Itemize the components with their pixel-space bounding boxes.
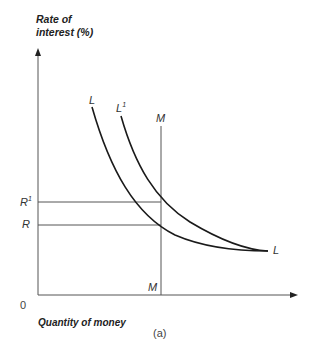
- m-top-label: M: [156, 112, 165, 124]
- l-curve: [92, 107, 268, 251]
- l-right-label: L: [273, 244, 279, 256]
- l-curve-label: L: [89, 94, 95, 106]
- x-axis-label: Quantity of money: [38, 317, 126, 328]
- m-bottom-label: M: [148, 281, 157, 293]
- r1-label: R1: [20, 195, 32, 208]
- origin-label: 0: [20, 299, 26, 311]
- liquidity-preference-diagram: Rate of interest (%) L L1 M M R1 R L 0 Q…: [0, 0, 313, 355]
- diagram-canvas: [0, 0, 313, 355]
- l1-curve-label: L1: [116, 101, 126, 114]
- l1-curve: [121, 116, 268, 251]
- r-label: R: [22, 218, 30, 230]
- figure-caption: (a): [153, 327, 166, 339]
